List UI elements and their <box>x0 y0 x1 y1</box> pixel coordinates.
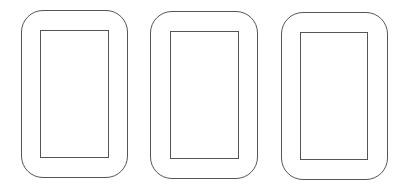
device-screen-1 <box>40 30 109 158</box>
device-screen-3 <box>300 32 368 160</box>
device-screen-2 <box>170 31 239 159</box>
